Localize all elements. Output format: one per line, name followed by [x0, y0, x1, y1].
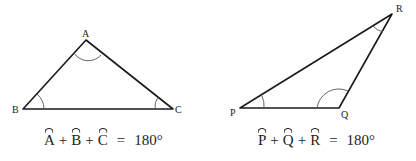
- vertex-label-c: C: [175, 104, 182, 115]
- vertex-label-b: B: [12, 104, 19, 115]
- plus-sign: +: [298, 132, 306, 149]
- plus-sign: +: [85, 132, 93, 149]
- angle-q-symbol: Q: [283, 132, 294, 149]
- angle-arc-p: [262, 96, 264, 108]
- angle-arc-c: [155, 97, 158, 109]
- angle-arc-b: [37, 94, 44, 109]
- plus-sign: +: [270, 132, 278, 149]
- formula-abc: A + B + C = 180°: [44, 132, 163, 149]
- angle-b-symbol: B: [71, 132, 81, 149]
- equals-sign: =: [117, 132, 125, 149]
- angle-arc-a: [74, 53, 101, 61]
- plus-sign: +: [59, 132, 67, 149]
- vertex-label-q: Q: [341, 109, 349, 120]
- angle-sum-value: 180°: [134, 132, 163, 149]
- triangle-abc: A B C: [12, 28, 182, 115]
- angle-a-symbol: A: [44, 132, 55, 149]
- vertex-label-r: R: [396, 3, 403, 14]
- angle-arc-q: [317, 89, 348, 108]
- angle-sum-value: 180°: [347, 132, 376, 149]
- formula-pqr: P + Q + R = 180°: [258, 132, 375, 149]
- angle-c-symbol: C: [98, 132, 108, 149]
- angle-r-symbol: R: [310, 132, 320, 149]
- equals-sign: =: [329, 132, 337, 149]
- angle-p-symbol: P: [258, 132, 266, 149]
- vertex-label-a: A: [82, 28, 90, 39]
- triangle-pqr-edges: [240, 14, 392, 108]
- vertex-label-p: P: [230, 107, 236, 118]
- angle-arc-r: [373, 26, 383, 32]
- triangle-pqr: P Q R: [230, 3, 403, 120]
- triangle-abc-edges: [23, 40, 173, 109]
